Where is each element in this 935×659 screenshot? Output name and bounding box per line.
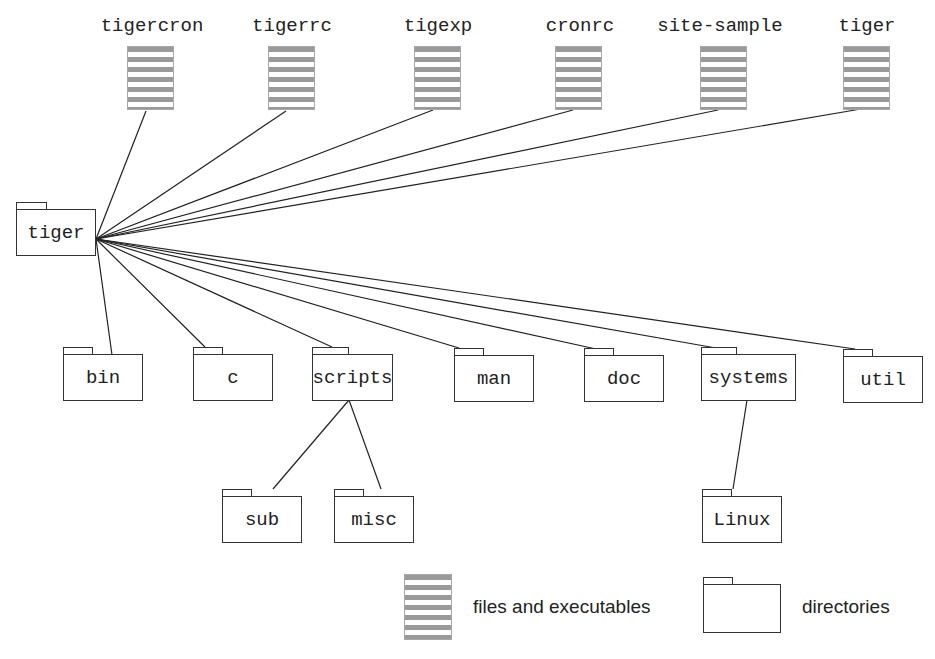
folder-linux: Linux <box>702 489 782 543</box>
folder-label-bin: bin <box>86 367 120 389</box>
edge-tiger-scripts <box>96 239 332 347</box>
legend-striped-file-icon <box>404 574 452 640</box>
file-icon-tigerrc <box>268 46 315 110</box>
file-label-tigerrc: tigerrc <box>252 17 332 36</box>
file-label-tiger: tiger <box>838 17 895 36</box>
edge-tiger-site-sample <box>96 110 718 239</box>
edge-tiger-tiger-exec <box>96 109 861 239</box>
folder-label-sub: sub <box>245 509 279 531</box>
folder-label-linux: Linux <box>713 509 770 531</box>
folder-misc: misc <box>334 489 414 543</box>
folder-label-systems: systems <box>709 367 789 389</box>
file-label-tigexp: tigexp <box>404 17 472 36</box>
folder-label-doc: doc <box>607 368 641 390</box>
folder-sub: sub <box>222 489 302 543</box>
folder-label-misc: misc <box>351 509 397 531</box>
folder-bin: bin <box>63 347 143 401</box>
folder-label-scripts: scripts <box>313 367 393 389</box>
folder-label-util: util <box>860 369 906 391</box>
folder-util: util <box>843 349 923 403</box>
edge-tiger-doc <box>96 239 596 349</box>
edge-tiger-cronrc <box>96 110 573 239</box>
edge-tiger-util <box>96 239 855 349</box>
edge-tiger-tigercron <box>96 111 146 239</box>
legend-directories-label: directories <box>802 596 890 618</box>
file-label-tigercron: tigercron <box>101 17 204 36</box>
folder-doc: doc <box>584 348 664 402</box>
folder-systems: systems <box>701 347 796 401</box>
tiger-directory-diagram: tigercron tigerrc tigexp cronrc site-sam… <box>0 0 935 659</box>
folder-c: c <box>193 347 273 401</box>
folder-label-tiger: tiger <box>27 222 84 244</box>
folder-label-c: c <box>227 367 238 389</box>
folder-scripts: scripts <box>312 347 393 401</box>
legend-files-label: files and executables <box>473 596 650 618</box>
file-icon-cronrc <box>555 46 602 110</box>
edge-tiger-tigexp <box>96 110 433 239</box>
legend-folder <box>703 577 781 633</box>
file-label-cronrc: cronrc <box>546 17 614 36</box>
folder-root-tiger: tiger <box>16 202 96 256</box>
file-icon-tigercron <box>127 46 174 110</box>
file-icon-site-sample <box>700 46 747 110</box>
file-label-site-sample: site-sample <box>657 17 782 36</box>
folder-label-man: man <box>477 368 511 390</box>
file-icon-tiger <box>843 46 890 110</box>
folder-man: man <box>454 348 534 402</box>
file-icon-tigexp <box>414 46 461 110</box>
edge-systems-linux <box>733 400 747 489</box>
edge-scripts-sub <box>273 400 349 489</box>
edge-tiger-bin <box>96 239 112 355</box>
edge-scripts-misc <box>349 400 381 489</box>
